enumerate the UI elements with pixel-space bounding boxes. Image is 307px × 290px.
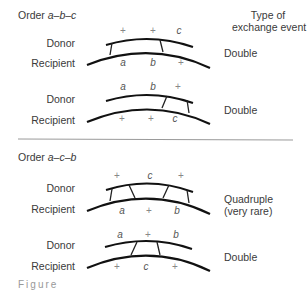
recipient-marker: b bbox=[174, 206, 180, 216]
donor-label: Donor bbox=[20, 239, 75, 251]
order-sequence: a–b–c bbox=[48, 9, 77, 21]
crossover-line bbox=[110, 189, 112, 201]
donor-marker: b bbox=[173, 230, 179, 240]
order-label: Order a–c–b bbox=[18, 151, 76, 163]
event-type: Double bbox=[224, 47, 257, 59]
recipient-marker: + bbox=[178, 58, 184, 68]
recipient-marker: + bbox=[114, 262, 120, 272]
recipient-chromosome-arc bbox=[87, 256, 210, 271]
crossover-line bbox=[187, 190, 189, 203]
donor-chromosome-arc bbox=[106, 39, 193, 47]
recipient-marker: c bbox=[173, 114, 178, 124]
donor-marker: a bbox=[117, 230, 123, 240]
crossover-line bbox=[162, 96, 167, 108]
recipient-marker: + bbox=[119, 114, 125, 124]
crossover-line bbox=[129, 185, 135, 198]
figure-caption-fragment: Figure bbox=[18, 279, 58, 290]
event-type: Double bbox=[224, 251, 257, 263]
recipient-marker: c bbox=[144, 262, 149, 272]
recipient-label: Recipient bbox=[10, 260, 75, 272]
donor-marker: a bbox=[120, 82, 126, 92]
recipient-chromosome-arc bbox=[87, 53, 210, 68]
order-sequence: a–c–b bbox=[48, 151, 77, 163]
recipient-marker: a bbox=[119, 206, 125, 216]
donor-label: Donor bbox=[20, 93, 75, 105]
recipient-label: Recipient bbox=[10, 114, 75, 126]
recipient-marker: + bbox=[146, 206, 152, 216]
crossover-line bbox=[160, 40, 163, 52]
recipient-marker: + bbox=[172, 262, 178, 272]
donor-marker: + bbox=[114, 171, 120, 181]
recipient-marker: + bbox=[148, 114, 154, 124]
crossover-line bbox=[163, 185, 169, 198]
donor-marker: + bbox=[178, 171, 184, 181]
recipient-label: Recipient bbox=[10, 203, 75, 215]
donor-marker: + bbox=[120, 26, 126, 36]
donor-marker: c bbox=[148, 171, 153, 181]
order-label: Order a–b–c bbox=[18, 9, 76, 21]
header-line-1: Type of bbox=[232, 9, 304, 21]
recipient-marker: b bbox=[150, 58, 156, 68]
donor-label: Donor bbox=[20, 37, 75, 49]
donor-chromosome-arc bbox=[106, 95, 193, 103]
donor-marker: b bbox=[150, 82, 156, 92]
recipient-label: Recipient bbox=[10, 57, 75, 69]
donor-marker: + bbox=[145, 230, 151, 240]
section-divider bbox=[18, 139, 293, 140]
recipient-marker: a bbox=[120, 58, 126, 68]
donor-label: Donor bbox=[20, 182, 75, 194]
donor-marker: + bbox=[150, 26, 156, 36]
header-line-2: exchange event bbox=[232, 21, 304, 33]
event-type: Double bbox=[224, 104, 257, 116]
type-of-event-header: Type of exchange event bbox=[232, 9, 304, 33]
donor-marker: + bbox=[175, 82, 181, 92]
donor-marker: c bbox=[177, 26, 182, 36]
donor-chromosome-arc bbox=[105, 241, 192, 249]
event-type: Quadruple bbox=[224, 193, 273, 205]
crossover-line bbox=[157, 242, 160, 255]
event-note: (very rare) bbox=[224, 205, 272, 217]
crossover-line bbox=[131, 242, 137, 255]
donor-chromosome-arc bbox=[106, 183, 193, 192]
